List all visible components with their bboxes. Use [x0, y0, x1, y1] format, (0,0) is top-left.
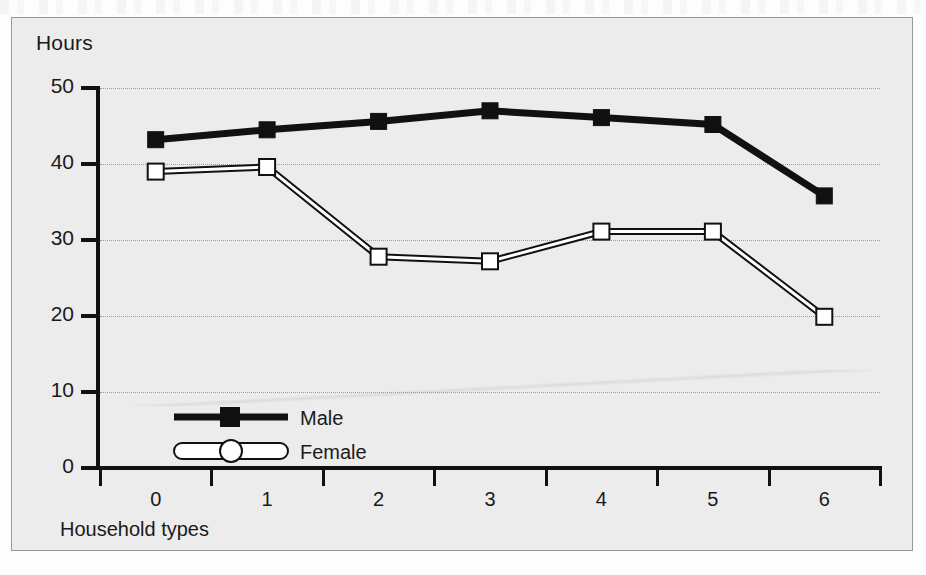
- series-female: [148, 159, 833, 325]
- data-point-male-6: [816, 188, 832, 204]
- data-point-female-2: [371, 249, 387, 265]
- legend-swatch-male-icon: [172, 404, 290, 430]
- series-male: [148, 103, 833, 204]
- data-point-male-4: [593, 110, 609, 126]
- legend-label-male: Male: [300, 407, 343, 430]
- data-point-male-5: [705, 117, 721, 133]
- data-point-male-3: [482, 103, 498, 119]
- series-line-fill: [156, 167, 825, 317]
- data-point-female-3: [482, 253, 498, 269]
- chart-figure: Hours 01020304050 0123456 Male Female Ho…: [11, 17, 913, 551]
- data-point-female-0: [148, 164, 164, 180]
- data-point-male-2: [371, 113, 387, 129]
- legend-swatch-female-icon: [172, 438, 290, 464]
- legend-label-female: Female: [300, 441, 367, 464]
- data-point-male-0: [148, 132, 164, 148]
- series-line: [156, 111, 825, 196]
- scan-noise-strip: [0, 0, 926, 14]
- data-point-male-1: [259, 122, 275, 138]
- data-series-layer: [12, 18, 914, 552]
- x-axis-title: Household types: [60, 518, 209, 541]
- data-point-female-4: [593, 224, 609, 240]
- data-point-female-6: [816, 309, 832, 325]
- data-point-female-1: [259, 159, 275, 175]
- data-point-female-5: [705, 224, 721, 240]
